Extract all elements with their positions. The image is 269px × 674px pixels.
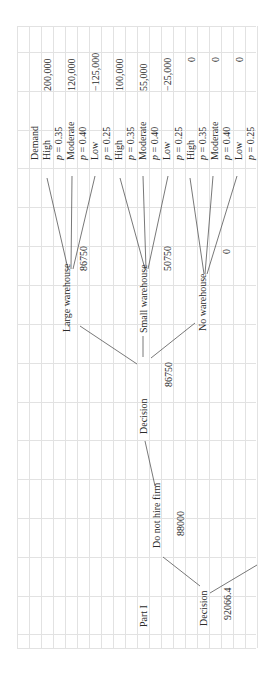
outcome-demand-label: Low	[89, 142, 100, 160]
alternative-small-warehouse: Small warehouse	[138, 264, 149, 333]
outcome-probability: p = 0.25	[173, 127, 184, 160]
payoff-value: −125,000	[90, 53, 101, 91]
alternative-small-warehouse-value: 50750	[162, 246, 173, 271]
outcome-demand-label: Low	[233, 142, 244, 160]
root-decision-label: Decision	[198, 590, 209, 626]
tree-branch-line	[71, 176, 72, 269]
tree-branch-line	[143, 176, 146, 269]
demand-header: Demand	[29, 126, 40, 160]
tree-branch-line	[47, 178, 68, 269]
outcome-probability: p = 0.25	[245, 127, 256, 160]
outcome-demand-label: Low	[161, 142, 172, 160]
payoff-value: 120,000	[66, 59, 77, 92]
outcome-demand-label: Moderate	[209, 122, 220, 160]
payoff-value: 0	[210, 57, 221, 62]
decision-node-label: Decision	[138, 398, 149, 434]
branch-do-not-hire-firm: Do not hire firm	[151, 483, 162, 548]
tree-branch-line	[190, 178, 204, 274]
outcome-demand-label: High	[185, 140, 196, 160]
tree-branch-line	[151, 323, 195, 358]
payoff-value: 55,000	[138, 64, 149, 92]
alternative-large-warehouse-value: 86750	[78, 246, 89, 271]
outcome-probability: p = 0.35	[53, 127, 64, 160]
tree-branch-line	[80, 326, 137, 364]
alternative-no-warehouse-value: 0	[221, 249, 232, 254]
payoff-value: −25,000	[162, 58, 173, 91]
outcome-probability: p = 0.40	[221, 127, 232, 160]
part-title: Part I	[138, 605, 149, 627]
tree-branch-line	[210, 565, 257, 593]
tree-branch-line	[120, 178, 145, 269]
spreadsheet-decision-tree: Demand High p = 0.35 Moderate p = 0.40 L…	[0, 0, 269, 674]
tree-branch-line	[145, 441, 155, 486]
alternative-no-warehouse: No warehouse	[197, 274, 208, 331]
alternative-large-warehouse: Large warehouse	[61, 264, 72, 332]
branch-do-not-hire-firm-value: 88000	[175, 511, 186, 536]
decision-node-value: 86750	[163, 362, 174, 387]
tree-branches	[0, 0, 269, 674]
payoff-value: 0	[186, 57, 197, 62]
payoff-value: 200,000	[42, 59, 53, 92]
outcome-demand-label: Moderate	[65, 122, 76, 160]
outcome-demand-label: High	[41, 140, 52, 160]
outcome-probability: p = 0.35	[197, 127, 208, 160]
outcome-probability: p = 0.40	[77, 127, 88, 160]
payoff-value: 100,000	[114, 59, 125, 92]
tree-branch-line	[163, 557, 200, 586]
outcome-probability: p = 0.25	[101, 127, 112, 160]
payoff-value: 0	[234, 57, 245, 62]
outcome-probability: p = 0.40	[149, 127, 160, 160]
outcome-probability: p = 0.35	[125, 127, 136, 160]
root-decision-value: 92066.4	[222, 588, 233, 621]
outcome-demand-label: High	[113, 140, 124, 160]
outcome-demand-label: Moderate	[137, 122, 148, 160]
